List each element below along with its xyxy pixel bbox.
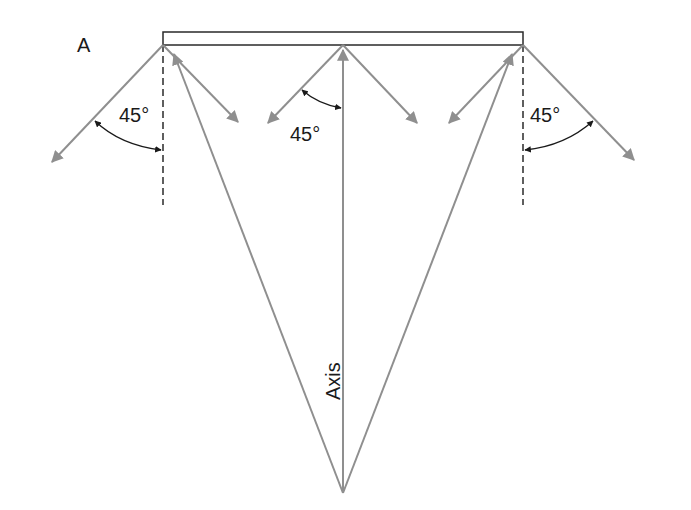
apex-ray-right — [343, 54, 512, 493]
center-ray-left — [268, 45, 343, 123]
left-angle-label: 45° — [119, 104, 149, 126]
left-ray-inner — [163, 45, 238, 122]
apex-ray-left — [174, 54, 343, 493]
right-angle-label: 45° — [530, 104, 560, 126]
center-angle-label: 45° — [290, 123, 320, 145]
axis-label: Axis — [322, 362, 344, 400]
center-ray-right — [343, 45, 417, 123]
right-ray-inner — [449, 45, 523, 123]
center-angle-arc — [302, 90, 341, 108]
right-ray-outer — [523, 45, 634, 160]
bar-element — [163, 32, 523, 45]
beam-spread-diagram: A 45° 45° 45° Axis — [0, 0, 691, 510]
corner-label: A — [77, 34, 91, 56]
